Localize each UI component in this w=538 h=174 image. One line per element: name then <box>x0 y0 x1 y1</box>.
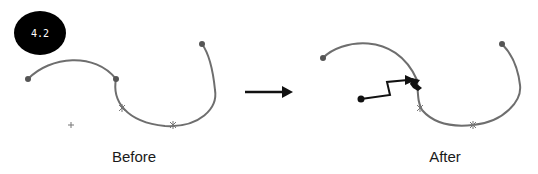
after-caption: After <box>429 148 461 165</box>
after-panel: After <box>320 41 520 165</box>
before-caption: Before <box>112 148 156 165</box>
after-curve <box>323 43 520 125</box>
control-point-icon <box>320 55 326 61</box>
before-panel: Before <box>25 41 215 165</box>
right-arrow-icon <box>245 86 293 98</box>
drag-path-icon <box>358 75 423 103</box>
figure-canvas: 4.2 Before <box>0 0 538 174</box>
plus-cursor-icon <box>68 122 74 128</box>
figure-badge: 4.2 <box>14 11 66 55</box>
before-curve <box>28 44 215 126</box>
control-point-icon <box>113 76 119 82</box>
badge-label: 4.2 <box>31 28 49 39</box>
control-point-icon <box>25 76 31 82</box>
star-marker-icon <box>417 104 423 112</box>
control-point-icon <box>199 41 205 47</box>
control-point-icon <box>499 41 505 47</box>
